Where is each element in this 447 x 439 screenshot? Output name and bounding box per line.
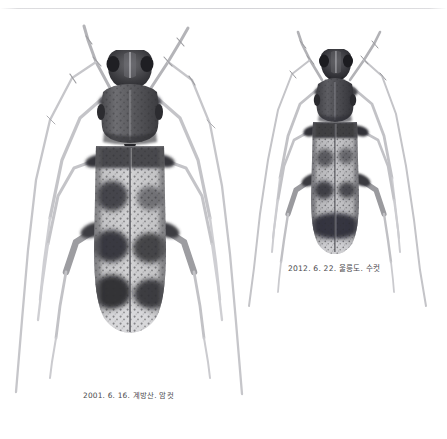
caption-specimen-left: 2001. 6. 16. 계방산. 암컷 xyxy=(83,389,174,400)
elytra-right-specimen xyxy=(309,122,363,259)
caption-specimen-right: 2012. 6. 22. 울릉도. 수컷 xyxy=(288,262,380,273)
elytra-left-specimen xyxy=(92,146,170,336)
specimen-left xyxy=(0,0,260,420)
pronotum-left-specimen xyxy=(94,82,168,146)
head-left-specimen xyxy=(107,50,154,89)
specimen-right xyxy=(240,18,447,318)
head-right-specimen xyxy=(319,49,353,81)
specimen-plate: 2001. 6. 16. 계방산. 암컷 2012. 6. 22. 울릉도. 수… xyxy=(0,0,447,439)
pronotum-right-specimen xyxy=(310,76,364,126)
